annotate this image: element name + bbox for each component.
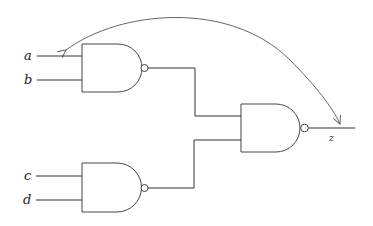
- label-z: z: [328, 133, 334, 143]
- nand-gate-2: [82, 163, 148, 212]
- label-c: c: [24, 168, 32, 183]
- wire-nand1-to-nand3: [148, 68, 241, 116]
- label-a: a: [24, 48, 32, 63]
- nand-gate-3: [241, 104, 308, 152]
- logic-circuit-diagram: a b c d z: [0, 0, 373, 226]
- label-d: d: [23, 192, 31, 207]
- inversion-bubble-1: [141, 65, 148, 72]
- wire-nand2-to-nand3: [148, 140, 241, 188]
- inversion-bubble-3: [301, 124, 309, 132]
- inversion-bubble-2: [141, 185, 148, 192]
- nand-gate-1: [82, 44, 148, 92]
- label-b: b: [24, 72, 32, 87]
